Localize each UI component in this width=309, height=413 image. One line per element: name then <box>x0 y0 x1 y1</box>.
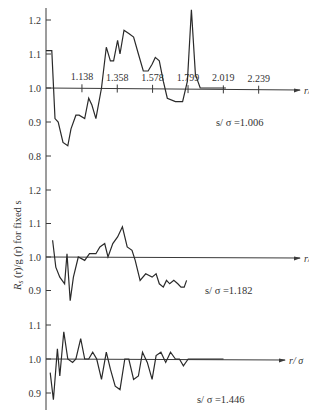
series-lines <box>46 10 226 400</box>
chart-figure: 1.21.11.00.90.81.21.11.00.91.11.00.9 r/ … <box>0 0 309 413</box>
y-axis-label: Rs (r)/g (r) for fixed s <box>12 200 25 291</box>
x-axis-label: r/ σ <box>289 355 304 366</box>
arrow-right-icon <box>294 89 301 93</box>
panel2-annotation: s/ σ =1.182 <box>205 285 252 296</box>
svg-text:Rs (r)/g (r) for fixed s: Rs (r)/g (r) for fixed s <box>12 200 25 291</box>
y-tick-label: 1.1 <box>29 49 42 60</box>
y-ticks: 1.21.11.00.90.81.21.11.00.91.11.00.9 <box>29 15 52 399</box>
panel1-annotation: s/ σ =1.006 <box>216 117 263 128</box>
x-tick-label: 2.239 <box>247 73 270 84</box>
x-tick-label: 2.019 <box>212 72 235 83</box>
x-axis-line <box>46 257 300 258</box>
y-tick-label: 0.8 <box>29 151 42 162</box>
arrow-right-icon <box>294 257 301 261</box>
x-axis-label: r/ σ <box>304 85 309 96</box>
x-tick-label: 1.578 <box>141 72 164 83</box>
y-tick-label: 1.2 <box>29 185 42 196</box>
series-line-panel-3 <box>50 332 223 400</box>
series-line-panel-2 <box>53 227 187 301</box>
x-axis-label: r/ σ <box>304 253 309 264</box>
y-tick-label: 0.9 <box>29 388 42 399</box>
panel3-annotation: s/ σ =1.446 <box>197 394 244 405</box>
x-tick-label: 1.138 <box>71 71 94 82</box>
y-tick-label: 1.2 <box>29 15 42 26</box>
x-tick-label: 1.358 <box>106 72 129 83</box>
y-tick-label: 1.1 <box>29 320 42 331</box>
baselines: r/ σr/ σr/ σ <box>46 85 309 366</box>
y-axis-label-rest: (r)/g (r) for fixed s <box>12 200 24 280</box>
y-tick-label: 0.9 <box>29 117 42 128</box>
y-tick-label: 1.0 <box>29 252 42 263</box>
y-tick-label: 0.9 <box>29 285 42 296</box>
x-axis-line <box>46 88 300 90</box>
y-tick-label: 1.0 <box>29 83 42 94</box>
y-tick-label: 1.1 <box>29 218 42 229</box>
arrow-right-icon <box>279 359 286 363</box>
y-tick-label: 1.0 <box>29 354 42 365</box>
x-axis-line <box>46 359 285 360</box>
